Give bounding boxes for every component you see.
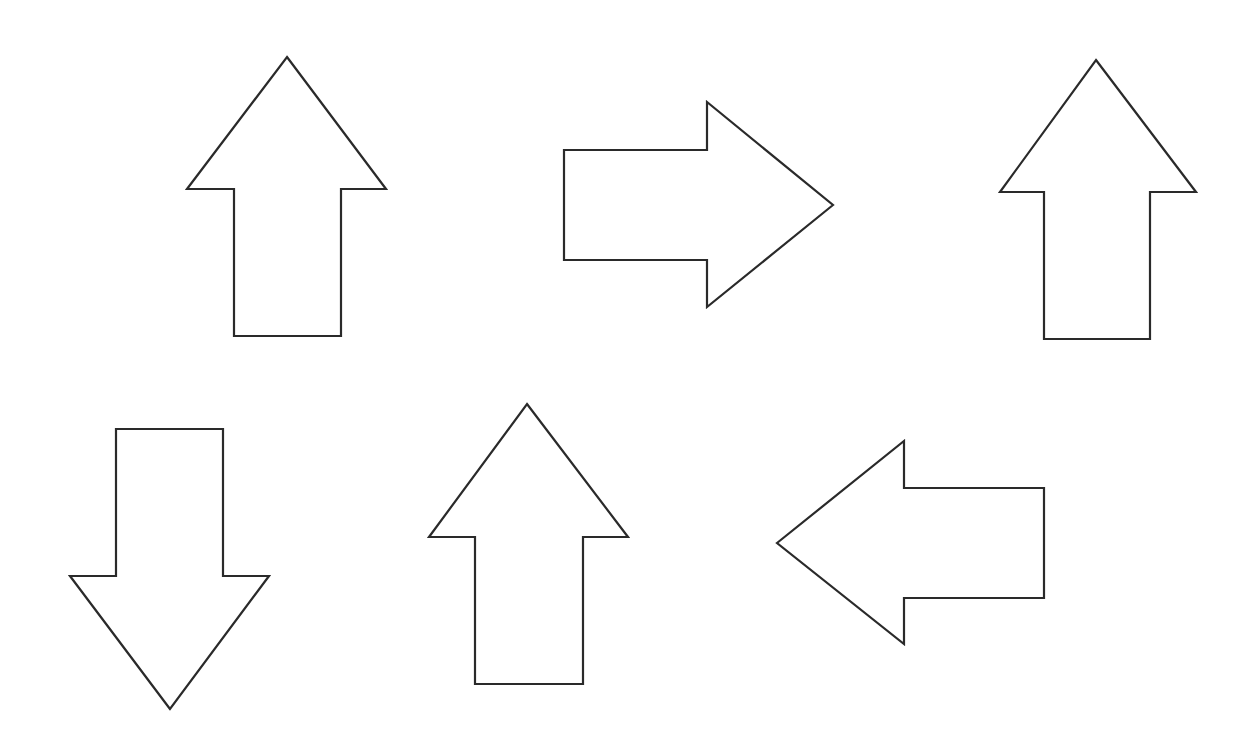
up-arrow-icon bbox=[429, 404, 628, 684]
arrow-diagram-canvas bbox=[0, 0, 1256, 747]
left-arrow-icon bbox=[777, 441, 1044, 644]
up-arrow-icon bbox=[1000, 60, 1196, 339]
right-arrow-icon bbox=[564, 102, 833, 307]
up-arrow-icon bbox=[187, 57, 386, 336]
down-arrow-icon bbox=[70, 429, 269, 709]
